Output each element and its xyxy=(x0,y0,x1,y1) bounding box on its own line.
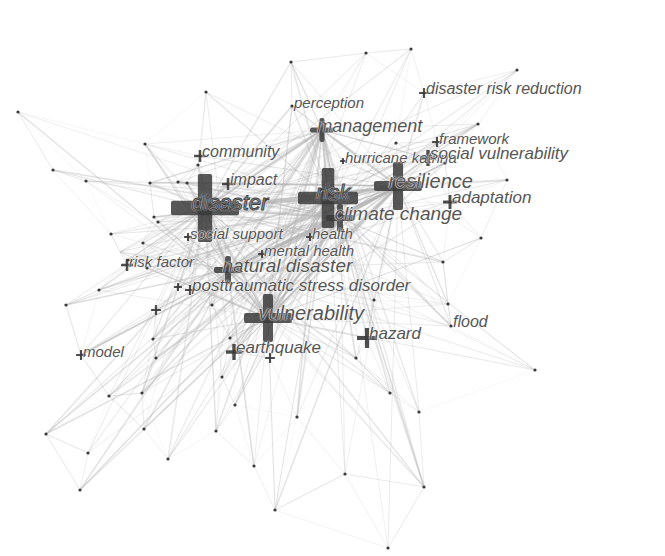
keyword-label-impact[interactable]: impact xyxy=(230,172,277,188)
keyword-label-disaster[interactable]: disaster xyxy=(191,192,268,214)
edge xyxy=(411,49,424,93)
keyword-label-model[interactable]: model xyxy=(83,344,124,359)
node-dot[interactable] xyxy=(210,303,213,306)
node-dot[interactable] xyxy=(109,232,112,235)
keyword-label-earthquake[interactable]: earthquake xyxy=(236,339,321,356)
keyword-label-flood[interactable]: flood xyxy=(453,314,488,330)
node-dot[interactable] xyxy=(214,429,217,432)
node-dot[interactable] xyxy=(394,141,397,144)
node-dot[interactable] xyxy=(372,298,375,301)
edge xyxy=(275,510,388,548)
node-dot[interactable] xyxy=(78,488,81,491)
node-dot[interactable] xyxy=(84,179,87,182)
node-dot[interactable] xyxy=(141,241,144,244)
edge xyxy=(66,305,81,355)
edge xyxy=(145,92,206,144)
edge xyxy=(235,405,297,417)
keyword-label-health[interactable]: health xyxy=(312,226,353,241)
edge xyxy=(46,434,80,490)
edge xyxy=(297,417,345,474)
node-dot[interactable] xyxy=(233,403,236,406)
node-dot[interactable] xyxy=(176,180,179,183)
keyword-label-risk-factor[interactable]: risk factor xyxy=(129,254,194,269)
node-dot[interactable] xyxy=(204,90,207,93)
edge xyxy=(291,62,292,106)
edge xyxy=(275,474,345,510)
keyword-label-climate-change[interactable]: climate change xyxy=(334,204,462,223)
edge xyxy=(145,130,322,144)
keyword-label-adaptation[interactable]: adaptation xyxy=(452,189,531,206)
node-dot[interactable] xyxy=(185,181,188,184)
node-dot[interactable] xyxy=(86,451,89,454)
keyword-label-disaster-risk-reduction[interactable]: disaster risk reduction xyxy=(426,81,582,97)
edge xyxy=(222,352,234,377)
node-dot[interactable] xyxy=(64,303,67,306)
edge xyxy=(66,290,99,305)
edge xyxy=(18,112,53,170)
node-dot[interactable] xyxy=(142,427,145,430)
node-dot[interactable] xyxy=(364,51,367,54)
edge xyxy=(150,183,154,217)
node-dot[interactable] xyxy=(156,220,159,223)
keyword-label-management[interactable]: management xyxy=(317,117,422,135)
node-dot[interactable] xyxy=(151,337,154,340)
node-dot[interactable] xyxy=(388,391,391,394)
node-dot[interactable] xyxy=(196,163,199,166)
keyword-label-risk[interactable]: risk xyxy=(316,182,350,204)
keyword-label-posttraumatic-stress-disorder[interactable]: posttraumatic stress disorder xyxy=(192,277,410,294)
node-dot[interactable] xyxy=(386,546,389,549)
edge xyxy=(270,358,297,417)
node-dot[interactable] xyxy=(422,485,425,488)
node-dot[interactable] xyxy=(252,464,255,467)
node-dot[interactable] xyxy=(154,356,157,359)
node-dot[interactable] xyxy=(441,260,444,263)
edge xyxy=(254,466,275,510)
node-dot[interactable] xyxy=(479,236,482,239)
node-dot[interactable] xyxy=(273,508,276,511)
node-dot[interactable] xyxy=(228,336,231,339)
edge xyxy=(145,144,200,156)
edge xyxy=(291,53,366,62)
node-dot[interactable] xyxy=(289,60,292,63)
node-dot[interactable] xyxy=(51,168,54,171)
edge xyxy=(424,93,437,142)
edge xyxy=(216,405,235,431)
edge xyxy=(109,393,142,396)
keyword-label-social-vulnerability[interactable]: social vulnerability xyxy=(430,145,568,162)
node-dot[interactable] xyxy=(140,391,143,394)
edge xyxy=(88,396,109,453)
node-dot[interactable] xyxy=(533,368,536,371)
node-dot[interactable] xyxy=(295,415,298,418)
node-dot[interactable] xyxy=(166,457,169,460)
edge xyxy=(345,474,388,548)
edge xyxy=(46,434,88,453)
node-dot[interactable] xyxy=(44,432,47,435)
edge xyxy=(80,429,144,490)
edge xyxy=(111,234,120,252)
node-dot[interactable] xyxy=(354,356,357,359)
node-dot[interactable] xyxy=(515,68,518,71)
node-dot[interactable] xyxy=(505,178,508,181)
keyword-label-social-support[interactable]: social support xyxy=(190,226,283,241)
edge xyxy=(275,417,297,510)
node-dot[interactable] xyxy=(220,375,223,378)
node-dot[interactable] xyxy=(417,410,420,413)
edge xyxy=(448,238,481,304)
node-dot[interactable] xyxy=(343,472,346,475)
node-dot[interactable] xyxy=(97,288,100,291)
node-dot[interactable] xyxy=(476,122,479,125)
node-dot[interactable] xyxy=(16,110,19,113)
node-dot[interactable] xyxy=(409,47,412,50)
edge xyxy=(366,49,411,53)
keyword-label-hazard[interactable]: hazard xyxy=(369,325,421,342)
keyword-label-community[interactable]: community xyxy=(202,144,279,160)
node-dot[interactable] xyxy=(446,302,449,305)
node-dot[interactable] xyxy=(143,142,146,145)
edges-layer xyxy=(18,49,535,548)
node-dot[interactable] xyxy=(148,181,151,184)
keyword-label-mental-health[interactable]: mental health xyxy=(264,243,354,258)
keyword-label-vulnerability[interactable]: vulnerability xyxy=(258,303,364,323)
node-dot[interactable] xyxy=(152,215,155,218)
node-dot[interactable] xyxy=(107,394,110,397)
keyword-label-perception[interactable]: perception xyxy=(294,95,364,110)
